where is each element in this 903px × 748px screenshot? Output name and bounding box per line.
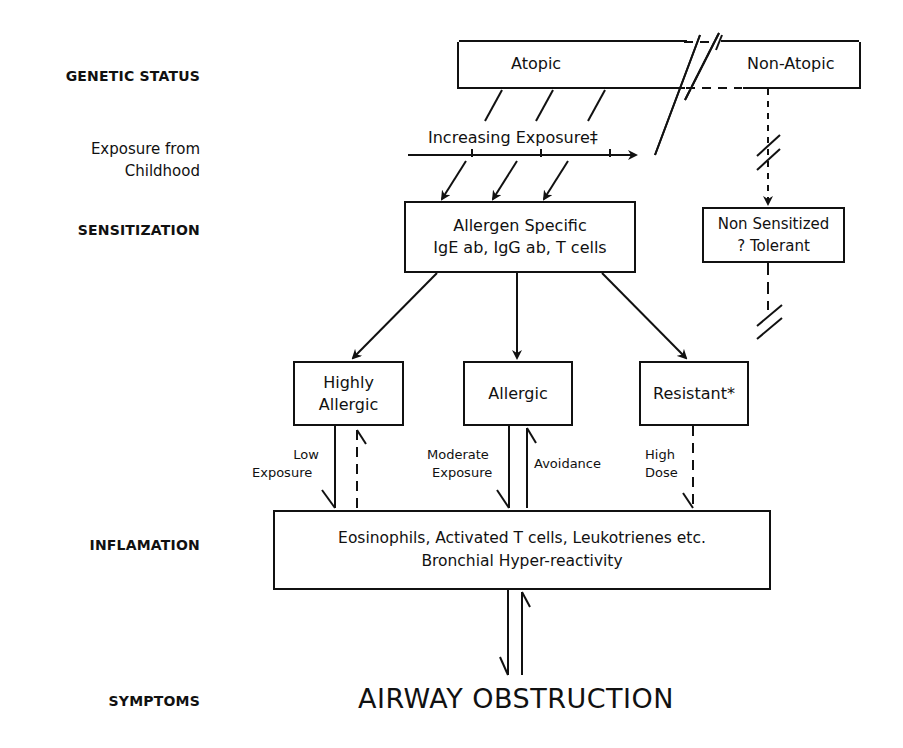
diagram-connectors bbox=[0, 0, 903, 748]
allergen-line1: Allergen Specific bbox=[453, 215, 586, 237]
airway-obstruction-label: AIRWAY OBSTRUCTION bbox=[326, 682, 706, 716]
non-sensitized-line2: ? Tolerant bbox=[737, 235, 810, 257]
non-atopic-label: Non-Atopic bbox=[747, 53, 834, 75]
stage-inflamation: INFLAMATION bbox=[89, 534, 200, 556]
atopic-label: Atopic bbox=[511, 53, 561, 75]
high-label: High bbox=[645, 445, 675, 464]
low-label: Low bbox=[284, 445, 328, 464]
low-exposure-label: Low bbox=[284, 445, 328, 464]
allergic-box: Allergic bbox=[463, 361, 573, 426]
stage-symptoms: SYMPTOMS bbox=[109, 690, 200, 712]
box-top-border bbox=[459, 40, 859, 42]
non-sensitized-line1: Non Sensitized bbox=[718, 213, 830, 235]
highly-allergic-line2: Allergic bbox=[319, 394, 378, 416]
genetic-status-box: Atopic Non-Atopic bbox=[457, 42, 861, 89]
allergen-specific-box: Allergen Specific IgE ab, IgG ab, T cell… bbox=[404, 201, 636, 273]
stage-exposure-line2: Childhood bbox=[125, 160, 200, 182]
border-gap bbox=[685, 86, 743, 90]
resistant-label: Resistant* bbox=[653, 383, 735, 405]
stage-exposure-line1: Exposure from bbox=[91, 138, 200, 160]
inflammation-line1: Eosinophils, Activated T cells, Leukotri… bbox=[338, 527, 706, 550]
stage-genetic-status: GENETIC STATUS bbox=[66, 65, 200, 87]
resistant-box: Resistant* bbox=[639, 361, 749, 426]
avoidance-label: Avoidance bbox=[534, 454, 601, 473]
inflammation-box: Eosinophils, Activated T cells, Leukotri… bbox=[273, 510, 771, 590]
low-exposure-label-2: Exposure bbox=[252, 463, 312, 482]
allergic-label: Allergic bbox=[488, 383, 547, 405]
moderate-exposure-label-2: Exposure bbox=[432, 463, 492, 482]
stage-sensitization: SENSITIZATION bbox=[78, 219, 200, 241]
moderate-label: Moderate bbox=[427, 445, 489, 464]
inflammation-line2: Bronchial Hyper-reactivity bbox=[421, 550, 622, 573]
allergen-line2: IgE ab, IgG ab, T cells bbox=[433, 237, 606, 259]
highly-allergic-box: Highly Allergic bbox=[293, 361, 404, 426]
dose-label: Dose bbox=[645, 463, 678, 482]
non-sensitized-box: Non Sensitized ? Tolerant bbox=[702, 207, 845, 263]
increasing-exposure-label: Increasing Exposure‡ bbox=[428, 128, 598, 148]
highly-allergic-line1: Highly bbox=[323, 372, 374, 394]
